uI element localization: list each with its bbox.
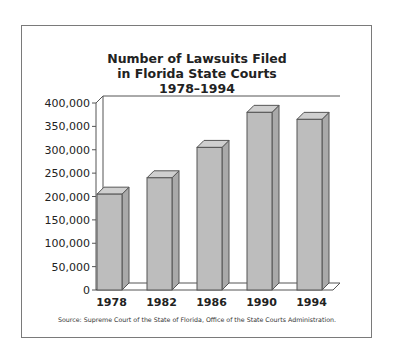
y-tick-label: 250,000	[45, 167, 91, 180]
bar-1978	[97, 187, 129, 290]
y-tick-label: 350,000	[45, 120, 91, 133]
y-tick-label: 400,000	[45, 97, 91, 110]
y-tick-label: 0	[83, 284, 90, 297]
x-tick-label: 1986	[196, 296, 227, 309]
y-tick-label: 50,000	[52, 261, 91, 274]
source-note: Source: Supreme Court of the State of Fl…	[0, 316, 394, 323]
x-tick-label: 1990	[246, 296, 277, 309]
bar-1986	[197, 140, 229, 290]
bar-1982	[147, 171, 179, 290]
y-tick-label: 300,000	[45, 144, 91, 157]
y-tick-label: 200,000	[45, 191, 91, 204]
y-tick-label: 150,000	[45, 214, 91, 227]
bars	[97, 105, 329, 290]
bar-1990	[247, 105, 279, 290]
bar-chart: 050,000100,000150,000200,000250,000300,0…	[0, 0, 394, 360]
x-tick-label: 1982	[146, 296, 177, 309]
x-tick-label: 1994	[296, 296, 327, 309]
bar-1994	[297, 112, 329, 290]
y-axis-ticks: 050,000100,000150,000200,000250,000300,0…	[45, 97, 97, 297]
x-tick-label: 1978	[96, 296, 127, 309]
y-tick-label: 100,000	[45, 237, 91, 250]
x-axis-labels: 19781982198619901994	[96, 296, 327, 309]
